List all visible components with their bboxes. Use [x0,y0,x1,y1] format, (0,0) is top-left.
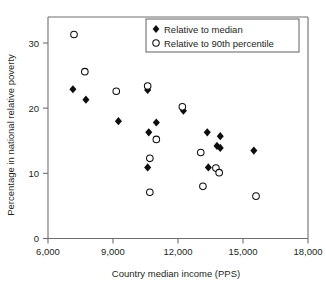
point-marker-circle [197,149,204,156]
x-tick-label: 18,000 [293,246,322,257]
series-2 [71,31,260,199]
data-points [69,31,259,199]
point-marker-diamond [204,128,211,136]
point-marker-circle [153,136,160,143]
x-tick-label: 6,000 [36,246,60,257]
point-marker-circle [82,68,89,75]
point-marker-circle [200,183,207,190]
chart-canvas: 6,0009,00012,00015,00018,0000102030 Rela… [0,0,326,289]
point-marker-diamond [250,146,257,154]
y-tick-label: 10 [28,168,39,179]
point-marker-circle [147,189,154,196]
point-marker-diamond [69,85,76,93]
point-marker-circle [216,169,223,176]
point-marker-circle [113,88,120,95]
point-marker-circle [179,104,186,111]
point-marker-circle [144,83,151,90]
point-marker-diamond [82,96,89,104]
legend-marker-circle [153,40,159,46]
point-marker-diamond [115,117,122,125]
x-axis-title: Country median income (PPS) [112,268,240,279]
legend-label: Relative to 90th percentile [164,38,274,49]
series-1 [69,85,257,171]
x-tick-label: 9,000 [101,246,125,257]
point-marker-circle [147,155,154,162]
point-marker-diamond [145,128,152,136]
chart-legend: Relative to medianRelative to 90th perce… [146,19,299,52]
x-tick-label: 15,000 [228,246,257,257]
point-marker-diamond [144,163,151,171]
point-marker-circle [71,31,78,38]
y-axis-title: Percentage in national relative poverty [5,54,16,216]
point-marker-circle [253,193,260,200]
point-marker-diamond [153,118,160,126]
point-marker-diamond [217,132,224,140]
x-tick-label: 12,000 [163,246,192,257]
y-tick-label: 0 [34,233,39,244]
y-tick-label: 20 [28,103,39,114]
legend-label: Relative to median [164,24,243,35]
point-marker-diamond [205,163,212,171]
axis-tick-labels: 6,0009,00012,00015,00018,0000102030 [28,38,322,257]
y-tick-label: 30 [28,38,39,49]
scatter-chart: 6,0009,00012,00015,00018,0000102030 Rela… [0,0,326,289]
